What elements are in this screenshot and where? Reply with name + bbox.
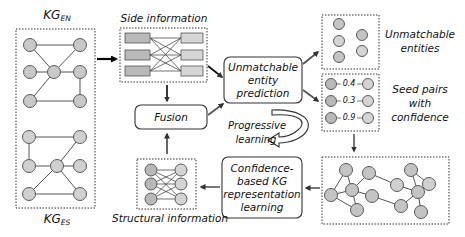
progressive-line-2: learning: [228, 133, 284, 147]
kg-en-base: KG: [43, 8, 60, 22]
seed-line-3: confidence: [386, 110, 454, 124]
prediction-label: Unmatchable entity prediction: [224, 57, 302, 103]
fusion-label: Fusion: [135, 105, 207, 129]
confidence-line-3: representation: [223, 188, 300, 201]
confidence-line-2: based KG: [237, 175, 287, 188]
merged-graph-box: [322, 157, 449, 224]
kg-en-label: KGEN: [35, 9, 79, 25]
unmatchable-line-1: Unmatchable: [382, 27, 458, 41]
confidence-line-4: learning: [240, 201, 283, 214]
kg-es-label: KGES: [35, 213, 79, 229]
arrow-side-to-prediction: [208, 66, 222, 77]
side-information-label: Side information: [113, 12, 215, 24]
arrow-to-unmatchable: [303, 52, 318, 64]
seed-pairs-label: Seed pairs with confidence: [386, 82, 454, 124]
prediction-line-2: entity: [248, 74, 278, 87]
progressive-learning-label: Progressive learning: [228, 119, 284, 147]
unmatchable-entities-box: [322, 15, 379, 69]
arrow-to-seed-pairs: [303, 90, 318, 101]
seed-line-2: with: [386, 96, 454, 110]
seed-line-1: Seed pairs: [386, 82, 454, 96]
prediction-line-1: Unmatchable: [228, 61, 298, 74]
side-information-box: [120, 28, 207, 82]
structural-information-box: [137, 159, 196, 209]
unmatchable-entities-label: Unmatchable entities: [382, 27, 458, 55]
kg-es-base: KG: [44, 212, 61, 226]
prediction-line-3: prediction: [237, 87, 290, 100]
framework-diagram: KGEN KGES Side information Structural in…: [0, 0, 465, 237]
seed-confidence-3: 0.9: [341, 112, 357, 124]
confidence-line-1: Confidence-: [231, 162, 294, 175]
progressive-line-1: Progressive: [228, 119, 284, 133]
seed-confidence-1: 0.4: [341, 78, 357, 90]
arrow-fusion-to-prediction: [208, 104, 223, 115]
structural-information-label: Structural information: [112, 212, 222, 224]
seed-confidence-2: 0.3: [341, 95, 357, 107]
unmatchable-line-2: entities: [382, 41, 458, 55]
kg-es-subscript: ES: [61, 218, 71, 227]
kg-en-subscript: EN: [60, 14, 70, 23]
confidence-learning-label: Confidence- based KG representation lear…: [222, 157, 302, 218]
kg-pair-box: [16, 29, 95, 208]
